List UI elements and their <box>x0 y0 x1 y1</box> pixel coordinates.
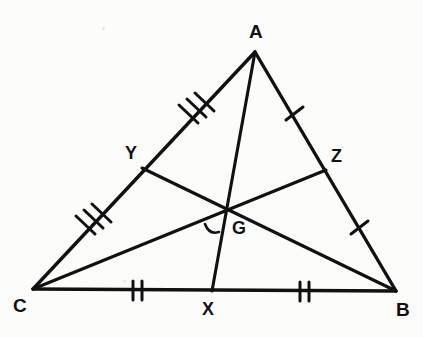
vertex-label-A: A <box>249 22 263 41</box>
triangle-medians <box>33 52 396 291</box>
vertex-label-B: B <box>396 300 410 319</box>
midpoint-label-X: X <box>202 300 214 318</box>
side-CB <box>33 289 396 291</box>
angle-arc-at-G-icon <box>205 224 219 233</box>
vertex-label-C: C <box>13 296 27 315</box>
tick-mark-YA-triple <box>179 93 214 123</box>
midpoint-label-Y: Y <box>125 144 137 162</box>
triangle-sides <box>33 52 396 291</box>
tick-mark-CY-triple <box>76 204 111 234</box>
midpoint-label-Z: Z <box>331 147 342 165</box>
triangle-median-figure <box>0 0 423 337</box>
median-AX <box>212 52 255 291</box>
centroid-label-G: G <box>232 219 246 237</box>
diagram-canvas: A B C X Y Z G <box>0 0 423 337</box>
